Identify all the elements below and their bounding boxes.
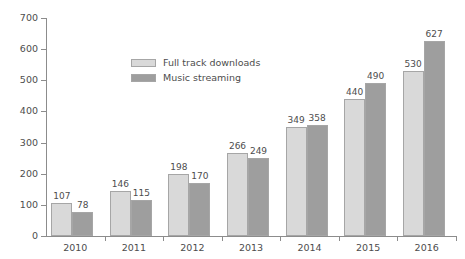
- legend-swatch-music-streaming: [131, 74, 156, 82]
- bar-value-label: 440: [340, 88, 370, 97]
- legend-swatch-full-track-downloads: [131, 59, 156, 67]
- bar-value-label: 78: [68, 201, 98, 210]
- x-axis-tick: [397, 237, 398, 241]
- y-axis-tick-label: 100: [0, 200, 38, 210]
- legend-item-music-streaming: Music streaming: [131, 72, 260, 84]
- bar-2015-full-track-downloads: [344, 99, 365, 236]
- y-axis-tick: [41, 236, 46, 237]
- bar-value-label: 490: [361, 72, 391, 81]
- x-axis-tick: [456, 237, 457, 241]
- y-axis-tick-label: 600: [0, 44, 38, 54]
- bar-value-label: 146: [105, 180, 135, 189]
- bar-2015-music-streaming: [365, 83, 386, 236]
- legend-label-music-streaming: Music streaming: [163, 73, 241, 83]
- x-axis-category-label: 2013: [221, 243, 281, 253]
- plot-area: [46, 18, 456, 236]
- x-axis-category-label: 2010: [45, 243, 105, 253]
- x-axis-line: [46, 236, 457, 237]
- x-axis-tick: [339, 237, 340, 241]
- y-axis-tick-label: 0: [0, 231, 38, 241]
- bar-2011-music-streaming: [131, 200, 152, 236]
- bar-2012-full-track-downloads: [168, 174, 189, 236]
- bar-value-label: 530: [398, 60, 428, 69]
- y-axis-tick-label: 200: [0, 169, 38, 179]
- x-axis-category-label: 2011: [104, 243, 164, 253]
- bar-value-label: 170: [185, 172, 215, 181]
- y-axis-tick-label: 700: [0, 13, 38, 23]
- y-axis-tick-label: 400: [0, 106, 38, 116]
- bar-2014-full-track-downloads: [286, 127, 307, 236]
- x-axis-tick: [222, 237, 223, 241]
- x-axis-category-label: 2014: [280, 243, 340, 253]
- x-axis-tick: [280, 237, 281, 241]
- x-axis-tick: [105, 237, 106, 241]
- bar-value-label: 249: [244, 147, 274, 156]
- x-axis-category-label: 2015: [338, 243, 398, 253]
- x-axis-tick: [163, 237, 164, 241]
- x-axis-category-label: 2012: [162, 243, 222, 253]
- y-axis-tick-label: 300: [0, 138, 38, 148]
- bar-value-label: 198: [164, 163, 194, 172]
- bar-2014-music-streaming: [307, 125, 328, 236]
- x-axis-category-label: 2016: [397, 243, 457, 253]
- bar-value-label: 627: [419, 30, 449, 39]
- bar-2010-music-streaming: [72, 212, 93, 236]
- bar-chart: 0100200300400500600700 20102011201220132…: [0, 0, 465, 259]
- legend: Full track downloads Music streaming: [131, 57, 260, 87]
- bar-2013-music-streaming: [248, 158, 269, 236]
- bar-2013-full-track-downloads: [227, 153, 248, 236]
- bar-2012-music-streaming: [189, 183, 210, 236]
- bar-value-label: 115: [126, 189, 156, 198]
- legend-item-full-track-downloads: Full track downloads: [131, 57, 260, 69]
- bar-value-label: 107: [47, 192, 77, 201]
- bar-value-label: 358: [302, 114, 332, 123]
- bar-2016-music-streaming: [424, 41, 445, 236]
- y-axis-tick-label: 500: [0, 75, 38, 85]
- bar-2016-full-track-downloads: [403, 71, 424, 236]
- legend-label-full-track-downloads: Full track downloads: [163, 58, 260, 68]
